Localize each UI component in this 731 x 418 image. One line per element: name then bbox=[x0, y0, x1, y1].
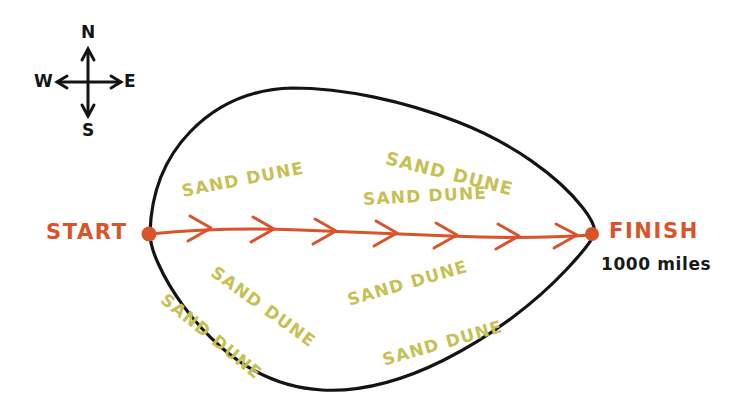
sketch-canvas: N E S W START FINISH 1000 miles SAND DUN… bbox=[0, 0, 731, 418]
finish-label: FINISH bbox=[609, 221, 699, 242]
finish-marker-dot bbox=[585, 227, 599, 241]
route-arrowhead bbox=[188, 216, 211, 241]
compass-rose-group bbox=[57, 49, 121, 116]
compass-west-label: W bbox=[34, 73, 53, 90]
distance-label: 1000 miles bbox=[601, 256, 711, 273]
route-path bbox=[150, 229, 592, 237]
compass-east-label: E bbox=[124, 73, 136, 90]
race-route-group bbox=[142, 216, 600, 249]
start-marker-dot bbox=[142, 227, 157, 242]
compass-south-label: S bbox=[82, 122, 94, 139]
start-label: START bbox=[46, 222, 128, 243]
compass-north-label: N bbox=[81, 24, 95, 41]
map-sketch-svg bbox=[0, 0, 731, 418]
